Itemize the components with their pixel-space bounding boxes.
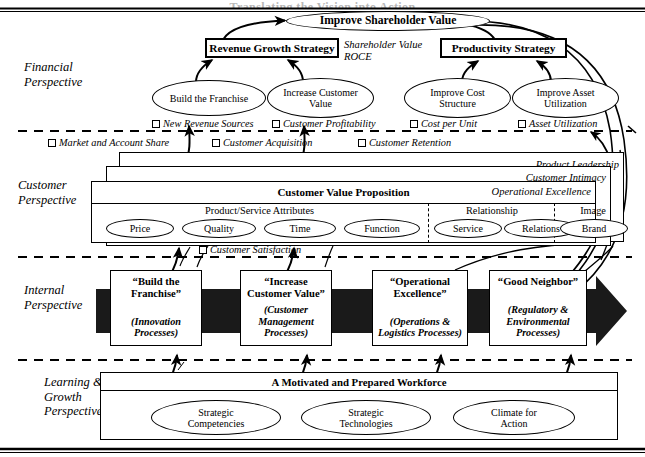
learning-item-climate-for-action[interactable]: Climate for Action bbox=[453, 400, 575, 435]
shareholder-value-note-line1: Shareholder Value bbox=[344, 39, 444, 51]
measure-cost-per-unit: Cost per Unit bbox=[410, 118, 477, 129]
measure-asset-utilization: Asset Utilization bbox=[518, 118, 597, 129]
internal-process-title: “Good Neighbor” bbox=[498, 276, 578, 288]
measure-customer-profitability: Customer Profitability bbox=[272, 118, 376, 129]
measure-label: Customer Acquisition bbox=[223, 137, 312, 148]
internal-process-subtitle: (Customer Management Processes) bbox=[258, 304, 313, 338]
measure-market-and-account-share: Market and Account Share bbox=[48, 137, 169, 148]
checkbox-icon bbox=[410, 120, 418, 128]
measure-customer-satisfaction: Customer Satisfaction bbox=[199, 244, 301, 255]
checkbox-icon bbox=[48, 139, 56, 147]
checkbox-icon bbox=[518, 120, 526, 128]
learning-items-row: Strategic Competencies Strategic Technol… bbox=[101, 391, 617, 440]
checkbox-icon bbox=[272, 120, 280, 128]
internal-process-good-neighbor[interactable]: “Good Neighbor” (Regulatory & Environmen… bbox=[489, 270, 587, 346]
measure-label: Customer Satisfaction bbox=[210, 244, 301, 255]
measure-customer-acquisition: Customer Acquisition bbox=[212, 137, 312, 148]
cvp-item-quality[interactable]: Quality bbox=[182, 219, 256, 238]
checkbox-icon bbox=[358, 139, 366, 147]
internal-process-title: “Increase Customer Value” bbox=[247, 276, 325, 299]
measure-label: New Revenue Sources bbox=[163, 118, 254, 129]
productivity-strategy-box[interactable]: Productivity Strategy bbox=[440, 38, 567, 58]
measure-new-revenue-sources: New Revenue Sources bbox=[152, 118, 254, 129]
perspective-label-financial: Financial Perspective bbox=[24, 60, 134, 89]
workforce-header: A Motivated and Prepared Workforce bbox=[101, 373, 617, 391]
improve-shareholder-value-oval[interactable]: Improve Shareholder Value bbox=[286, 11, 490, 31]
shareholder-value-note-line2: ROCE bbox=[344, 51, 444, 63]
measure-label: Customer Retention bbox=[369, 137, 451, 148]
objective-improve-cost-structure[interactable]: Improve Cost Structure bbox=[404, 78, 511, 118]
internal-process-title: “Build the Franchise” bbox=[111, 276, 201, 299]
internal-process-increase-customer-value[interactable]: “Increase Customer Value” (Customer Mana… bbox=[240, 270, 332, 346]
cvp-group-heading-product-service-attributes: Product/Service Attributes bbox=[92, 205, 427, 216]
learning-item-strategic-technologies[interactable]: Strategic Technologies bbox=[301, 400, 431, 435]
measure-label: Customer Profitability bbox=[283, 118, 376, 129]
cvp-item-brand[interactable]: Brand bbox=[560, 219, 628, 238]
internal-process-title: “Operational Excellence” bbox=[390, 276, 450, 299]
strategy-map-diagram: Translating the Vision into Action bbox=[0, 0, 645, 457]
learning-growth-container: A Motivated and Prepared Workforce Strat… bbox=[100, 372, 618, 440]
checkbox-icon bbox=[152, 120, 160, 128]
objective-improve-asset-utilization[interactable]: Improve Asset Utilization bbox=[512, 78, 619, 118]
cut-off-page-header: Translating the Vision into Action bbox=[0, 0, 645, 9]
objective-build-the-franchise[interactable]: Build the Franchise bbox=[152, 80, 266, 116]
cvp-layer-label: Operational Excellence bbox=[492, 186, 591, 197]
shareholder-value-note: Shareholder Value ROCE bbox=[344, 39, 444, 62]
internal-process-subtitle: (Innovation Processes) bbox=[131, 316, 181, 338]
learning-item-strategic-competencies[interactable]: Strategic Competencies bbox=[151, 400, 281, 435]
measure-label: Cost per Unit bbox=[421, 118, 477, 129]
cvp-group-heading-image: Image bbox=[558, 205, 628, 216]
cvp-item-function[interactable]: Function bbox=[344, 219, 420, 238]
checkbox-icon bbox=[212, 139, 220, 147]
measure-customer-retention: Customer Retention bbox=[358, 137, 451, 148]
internal-process-subtitle: (Operations & Logistics Processes) bbox=[378, 316, 462, 338]
cvp-item-service[interactable]: Service bbox=[434, 219, 502, 238]
revenue-growth-strategy-box[interactable]: Revenue Growth Strategy bbox=[205, 38, 339, 58]
checkbox-icon bbox=[199, 246, 207, 254]
cvp-separator-1 bbox=[428, 203, 429, 243]
measure-label: Market and Account Share bbox=[59, 137, 169, 148]
measure-label: Asset Utilization bbox=[529, 118, 597, 129]
internal-process-subtitle: (Regulatory & Environmental Processes) bbox=[506, 304, 569, 338]
cvp-layer-operational-excellence[interactable]: Customer Value Proposition Operational E… bbox=[91, 181, 596, 243]
cvp-group-heading-relationship: Relationship bbox=[432, 205, 552, 216]
cvp-item-price[interactable]: Price bbox=[106, 219, 174, 238]
cvp-title-row: Customer Value Proposition Operational E… bbox=[92, 182, 595, 204]
internal-process-operational-excellence[interactable]: “Operational Excellence” (Operations & L… bbox=[372, 270, 468, 346]
objective-increase-customer-value[interactable]: Increase Customer Value bbox=[267, 78, 374, 118]
cvp-item-time[interactable]: Time bbox=[264, 219, 336, 238]
internal-process-build-the-franchise[interactable]: “Build the Franchise” (Innovation Proces… bbox=[110, 270, 202, 346]
